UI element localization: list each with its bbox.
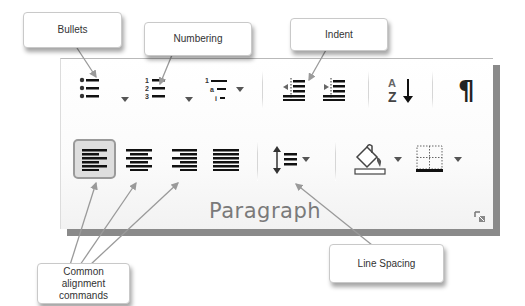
svg-text:1: 1 [145,77,149,84]
callout-numbering: Numbering [144,22,252,56]
multilevel-dropdown-arrow[interactable] [236,87,244,92]
svg-text:Z: Z [388,89,397,105]
callout-alignment-line2: alignment [62,278,105,290]
line-spacing-icon [273,145,303,175]
dialog-launcher-button[interactable] [474,209,486,221]
svg-text:A: A [388,77,396,89]
group-label: Paragraph [209,199,321,223]
bullets-dropdown-arrow[interactable] [121,97,129,102]
line-spacing-dropdown-arrow[interactable] [302,157,310,162]
justify-icon [213,149,239,171]
svg-text:i: i [215,95,217,102]
align-center-icon [126,149,152,171]
separator [335,141,336,181]
decrease-indent-button[interactable] [282,78,306,102]
increase-indent-icon [322,78,346,102]
separator [368,71,369,109]
callout-bullets-text: Bullets [57,24,87,36]
line-spacing-button[interactable] [273,145,303,175]
numbering-button[interactable]: 1 2 3 [145,76,167,100]
shading-button[interactable] [353,143,387,175]
show-hide-button[interactable]: ¶ [457,75,479,103]
align-left-button[interactable] [82,149,108,171]
callout-line-spacing-text: Line Spacing [358,258,416,270]
increase-indent-button[interactable] [322,78,346,102]
multilevel-list-icon: 1 a i [205,76,231,102]
decrease-indent-icon [282,78,306,102]
paint-bucket-icon [353,143,387,175]
multilevel-list-button[interactable]: 1 a i [205,76,231,102]
separator [262,71,263,109]
callout-line-spacing: Line Spacing [329,244,444,283]
align-center-button[interactable] [126,149,152,171]
numbering-icon: 1 2 3 [145,76,167,100]
separator [432,71,433,109]
callout-numbering-text: Numbering [174,33,223,45]
sort-az-icon: A Z [386,75,416,105]
svg-text:1: 1 [205,77,209,84]
shading-dropdown-arrow[interactable] [394,157,402,162]
bullets-icon [79,77,101,99]
align-left-icon [82,149,108,171]
separator [257,141,258,181]
numbering-dropdown-arrow[interactable] [185,97,193,102]
callout-alignment-line3: commands [59,290,108,302]
align-right-button[interactable] [171,149,197,171]
svg-text:3: 3 [145,93,149,100]
justify-button[interactable] [213,149,239,171]
callout-bullets: Bullets [23,12,122,48]
svg-text:a: a [210,86,214,93]
svg-text:2: 2 [145,85,149,92]
sort-button[interactable]: A Z [386,75,416,105]
callout-indent-text: Indent [325,29,353,41]
borders-button[interactable] [416,145,444,173]
dialog-launcher-icon [474,211,486,223]
svg-text:¶: ¶ [458,76,475,103]
borders-dropdown-arrow[interactable] [454,157,462,162]
pilcrow-icon: ¶ [457,75,479,103]
align-right-icon [171,149,197,171]
callout-indent: Indent [290,18,388,51]
borders-icon [416,145,444,173]
callout-alignment: Common alignment commands [37,263,130,304]
bullets-button[interactable] [79,77,101,99]
callout-alignment-line1: Common [63,266,104,278]
paragraph-group: 1 2 3 1 a i [60,58,493,229]
